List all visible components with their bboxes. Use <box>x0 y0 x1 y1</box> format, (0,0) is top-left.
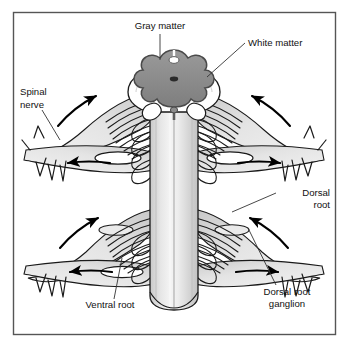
spinal-cord-column <box>150 104 198 310</box>
label-spinal-nerve-line2: nerve <box>20 99 44 110</box>
label-spinal-nerve-line1: Spinal <box>20 86 47 97</box>
label-gray-matter: Gray matter <box>135 20 186 31</box>
spinal-cord-diagram: Gray matter White matter Spinal nerve Do… <box>0 0 348 349</box>
label-dorsal-root-line1: Dorsal <box>302 187 330 198</box>
label-dorsal-root-ganglion-line2: ganglion <box>269 298 305 309</box>
label-ventral-root: Ventral root <box>85 299 134 310</box>
label-dorsal-root-ganglion-line1: Dorsal root <box>264 286 311 297</box>
gray-matter-region <box>134 50 214 120</box>
figure-container: Gray matter White matter Spinal nerve Do… <box>0 0 348 349</box>
label-dorsal-root-line2: root <box>313 199 330 210</box>
label-white-matter: White matter <box>248 37 303 48</box>
